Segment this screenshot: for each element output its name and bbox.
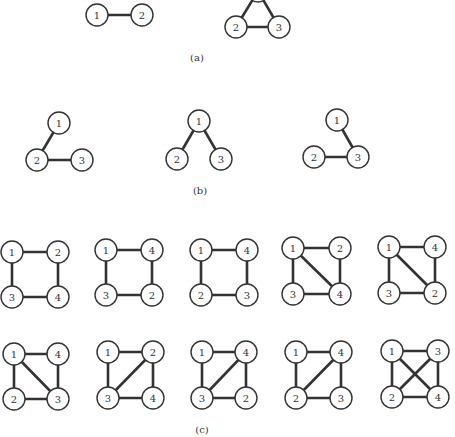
node-1: 1: [190, 239, 212, 261]
node-1: 1: [48, 112, 70, 134]
svg-text:1: 1: [56, 118, 62, 129]
node-2: 2: [141, 284, 163, 306]
node-2: 2: [131, 4, 153, 26]
svg-text:3: 3: [218, 154, 224, 165]
graph-diagram: 1212312312312312341432142312341432142312…: [0, 0, 455, 437]
graph-c8: 1432: [191, 341, 257, 409]
node-3: 3: [210, 148, 232, 170]
svg-text:1: 1: [94, 10, 100, 21]
node-2: 2: [47, 241, 69, 263]
svg-text:2: 2: [198, 290, 204, 301]
caption-c: (c): [195, 424, 208, 435]
node-1: 1: [191, 341, 213, 363]
svg-text:4: 4: [55, 349, 61, 360]
svg-text:3: 3: [355, 152, 361, 163]
svg-text:2: 2: [233, 22, 239, 33]
svg-text:2: 2: [34, 155, 40, 166]
svg-text:4: 4: [338, 347, 344, 358]
node-2: 2: [142, 341, 164, 363]
caption-b: (b): [193, 185, 207, 196]
node-3: 3: [71, 149, 93, 171]
graph-c3: 1423: [190, 239, 258, 306]
node-1: 1: [378, 236, 400, 258]
svg-text:1: 1: [389, 346, 395, 357]
node-1: 1: [381, 340, 403, 362]
svg-text:3: 3: [386, 288, 392, 299]
node-3: 3: [378, 282, 400, 304]
svg-text:3: 3: [9, 292, 15, 303]
svg-text:1: 1: [293, 347, 299, 358]
node-3: 3: [1, 286, 23, 308]
node-2: 2: [303, 146, 325, 168]
svg-text:2: 2: [243, 393, 249, 404]
node-4: 4: [142, 387, 164, 409]
node-2: 2: [329, 237, 351, 259]
graph-c6: 1423: [3, 343, 69, 410]
node-1: 1: [285, 341, 307, 363]
svg-text:1: 1: [11, 349, 17, 360]
node-4: 4: [235, 341, 257, 363]
node-4: 4: [47, 343, 69, 365]
svg-text:2: 2: [311, 152, 317, 163]
node-1: 1: [95, 239, 117, 261]
graph-a2: 123: [225, 0, 290, 38]
node-3: 3: [330, 387, 352, 409]
node-4: 4: [47, 286, 69, 308]
node-2: 2: [190, 284, 212, 306]
svg-text:2: 2: [174, 154, 180, 165]
node-4: 4: [329, 283, 351, 305]
node-1: 1: [282, 237, 304, 259]
node-3: 3: [95, 284, 117, 306]
svg-text:1: 1: [105, 347, 111, 358]
svg-text:3: 3: [79, 155, 85, 166]
node-4: 4: [141, 239, 163, 261]
node-4: 4: [330, 341, 352, 363]
svg-text:1: 1: [103, 245, 109, 256]
node-1: 1: [1, 241, 23, 263]
svg-text:4: 4: [435, 392, 441, 403]
svg-text:2: 2: [293, 393, 299, 404]
node-1: 1: [86, 4, 108, 26]
node-4: 4: [427, 386, 449, 408]
svg-text:1: 1: [9, 247, 15, 258]
svg-text:3: 3: [276, 22, 282, 33]
svg-text:3: 3: [244, 290, 250, 301]
node-2: 2: [285, 387, 307, 409]
node-4: 4: [236, 239, 258, 261]
node-3: 3: [47, 388, 69, 410]
graph-a1: 12: [86, 4, 153, 26]
node-1: 1: [3, 343, 25, 365]
graph-b2: 123: [166, 110, 232, 170]
svg-text:2: 2: [139, 10, 145, 21]
node-1: 1: [188, 110, 210, 132]
svg-text:3: 3: [55, 394, 61, 405]
node-2: 2: [26, 149, 48, 171]
svg-text:1: 1: [290, 243, 296, 254]
node-1: 1: [326, 109, 348, 131]
node-2: 2: [235, 387, 257, 409]
node-1: 1: [97, 341, 119, 363]
svg-text:2: 2: [337, 243, 343, 254]
graph-c7: 1234: [97, 341, 164, 409]
graph-c1: 1234: [1, 241, 69, 308]
node-2: 2: [3, 388, 25, 410]
svg-text:2: 2: [149, 290, 155, 301]
svg-text:3: 3: [338, 393, 344, 404]
node-3: 3: [427, 340, 449, 362]
node-2: 2: [424, 282, 446, 304]
graph-c9: 1423: [285, 341, 352, 409]
svg-text:2: 2: [432, 288, 438, 299]
svg-text:4: 4: [243, 347, 249, 358]
svg-text:4: 4: [244, 245, 250, 256]
svg-text:1: 1: [334, 115, 340, 126]
svg-text:2: 2: [11, 394, 17, 405]
node-3: 3: [268, 16, 290, 38]
node-3: 3: [97, 387, 119, 409]
node-2: 2: [225, 16, 247, 38]
graph-c2: 1432: [95, 239, 163, 306]
node-3: 3: [191, 387, 213, 409]
graph-c10: 1324: [381, 340, 449, 408]
svg-text:2: 2: [55, 247, 61, 258]
svg-text:4: 4: [149, 245, 155, 256]
node-4: 4: [424, 236, 446, 258]
